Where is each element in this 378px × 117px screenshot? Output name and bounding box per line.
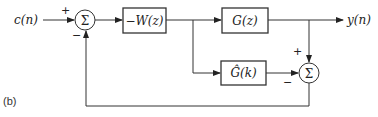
minus-sign-1: −: [72, 29, 81, 42]
minus-sign-2: −: [283, 76, 292, 89]
sigma-symbol-2: Σ: [305, 67, 313, 81]
controller-block: −W(z): [123, 8, 166, 33]
input-label: c(n): [14, 13, 38, 27]
feedback-path: [86, 31, 309, 106]
summing-junction-2: Σ: [299, 63, 319, 83]
summing-junction-1: Σ: [75, 10, 95, 30]
sigma-symbol-1: Σ: [81, 14, 89, 28]
arrow-branch-to-model: [193, 20, 220, 73]
block-diagram: c(n) Σ + − −W(z) G(z) y(n) + Ĝ(k) − Σ: [0, 0, 378, 117]
plant-block: G(z): [222, 8, 268, 33]
model-block: Ĝ(k): [221, 61, 266, 85]
diagram-svg: c(n) Σ + − −W(z) G(z) y(n) + Ĝ(k) − Σ: [0, 0, 378, 117]
figure-label: (b): [3, 95, 16, 107]
output-label: y(n): [346, 13, 371, 27]
controller-label: −W(z): [125, 14, 163, 28]
plus-sign-1: +: [61, 4, 70, 17]
plus-sign-2: +: [293, 45, 302, 58]
model-label: Ĝ(k): [230, 64, 257, 80]
plant-label: G(z): [232, 14, 258, 28]
